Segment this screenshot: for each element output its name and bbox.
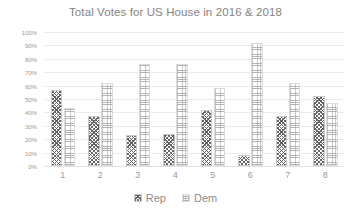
y-tick-label: 60% [25, 82, 37, 89]
y-tick-label: 90% [25, 42, 37, 49]
chart-container: Total Votes for US House in 2016 & 2018 … [0, 0, 351, 221]
bar-rep-7[interactable] [276, 116, 288, 166]
bar-rep-6[interactable] [238, 155, 250, 166]
chart-title: Total Votes for US House in 2016 & 2018 [0, 6, 351, 18]
legend-label-dem: Dem [194, 192, 217, 204]
bar-group [126, 32, 151, 166]
bar-rep-2[interactable] [88, 116, 100, 166]
bar-dem-1[interactable] [64, 108, 76, 166]
gridline [44, 166, 344, 167]
y-tick-label: 100% [22, 29, 37, 36]
y-tick-label: 50% [25, 96, 37, 103]
bar-dem-2[interactable] [101, 83, 113, 166]
bar-dem-8[interactable] [326, 103, 338, 166]
x-tick-label: 6 [248, 170, 253, 180]
x-axis: 12345678 [44, 168, 344, 184]
bar-group [201, 32, 226, 166]
bar-rep-5[interactable] [201, 110, 213, 166]
x-tick-label: 5 [210, 170, 215, 180]
bar-group [88, 32, 113, 166]
legend-swatch-rep-icon [134, 194, 142, 202]
y-tick-label: 30% [25, 122, 37, 129]
legend-swatch-dem-icon [182, 194, 190, 202]
bar-rep-3[interactable] [126, 135, 138, 166]
bar-dem-5[interactable] [214, 88, 226, 166]
bar-rep-1[interactable] [51, 90, 63, 166]
y-tick-label: 40% [25, 109, 37, 116]
bar-group [51, 32, 76, 166]
bar-dem-6[interactable] [251, 43, 263, 166]
bar-dem-4[interactable] [176, 64, 188, 166]
x-tick-label: 4 [173, 170, 178, 180]
chart-legend: Rep Dem [0, 192, 351, 204]
bar-dem-3[interactable] [139, 64, 151, 166]
y-tick-label: 0% [28, 163, 37, 170]
y-tick-label: 20% [25, 136, 37, 143]
x-tick-label: 3 [135, 170, 140, 180]
x-tick-label: 7 [285, 170, 290, 180]
bar-rep-8[interactable] [313, 96, 325, 166]
x-tick-label: 8 [323, 170, 328, 180]
bar-group [313, 32, 338, 166]
bar-group [238, 32, 263, 166]
legend-label-rep: Rep [146, 192, 166, 204]
plot-area [44, 32, 344, 166]
bar-group [163, 32, 188, 166]
x-tick-label: 2 [98, 170, 103, 180]
bar-rep-4[interactable] [163, 134, 175, 166]
y-tick-label: 10% [25, 149, 37, 156]
x-tick-label: 1 [60, 170, 65, 180]
y-tick-label: 80% [25, 55, 37, 62]
y-tick-label: 70% [25, 69, 37, 76]
y-axis: 100%90%80%70%60%50%40%30%20%10%0% [0, 32, 40, 166]
bar-dem-7[interactable] [289, 83, 301, 166]
legend-item-dem[interactable]: Dem [182, 192, 217, 204]
legend-item-rep[interactable]: Rep [134, 192, 166, 204]
bar-group [276, 32, 301, 166]
